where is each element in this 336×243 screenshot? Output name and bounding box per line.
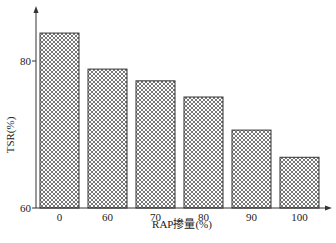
bar-90 xyxy=(232,130,271,208)
x-tick-label: 0 xyxy=(57,211,63,223)
x-tick-label: 100 xyxy=(291,211,308,223)
y-tick-label: 80 xyxy=(20,55,32,67)
bar-chart: 6080 060708090100 RAP掺量(%) TSR(%) xyxy=(0,0,336,243)
y-axis-arrow-icon xyxy=(34,6,39,13)
x-tick-label: 60 xyxy=(102,211,114,223)
x-axis-label: RAP掺量(%) xyxy=(152,217,212,231)
bar-0 xyxy=(40,33,79,208)
bar-80 xyxy=(184,97,223,208)
y-axis-label: TSR(%) xyxy=(4,116,17,153)
y-tick-label: 60 xyxy=(20,202,32,214)
x-tick-label: 90 xyxy=(246,211,258,223)
bar-100 xyxy=(280,157,319,208)
bar-60 xyxy=(88,69,127,208)
bars-group xyxy=(40,33,319,208)
x-axis-arrow-icon xyxy=(325,206,332,211)
bar-70 xyxy=(136,81,175,208)
y-ticks: 6080 xyxy=(20,55,36,214)
